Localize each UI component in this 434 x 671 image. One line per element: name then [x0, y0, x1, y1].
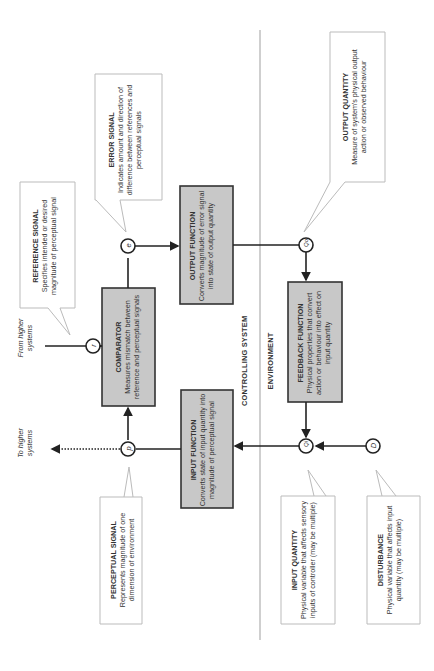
- feedback-function-description: Physical properties that convert action …: [305, 291, 332, 395]
- error-signal-title: ERROR SIGNAL: [107, 80, 116, 200]
- disturbance-text: DISTURBANCE Physical variable that affec…: [376, 500, 412, 620]
- input-function-description: Converts state of input quantity into ma…: [198, 394, 216, 507]
- feedback-function-title: FEEDBACK FUNCTION: [296, 283, 305, 403]
- output-quantity-text: OUTPUT QUANTITY Measure of system's phys…: [341, 45, 375, 169]
- perceptual-signal-text: PERCEPTUAL SIGNAL Represents magnitude o…: [109, 500, 137, 620]
- node-d-label: D: [369, 438, 378, 454]
- error-signal-text: ERROR SIGNAL Indicates amount and direct…: [107, 80, 149, 200]
- input-quantity-title: INPUT QUANTITY: [290, 500, 299, 620]
- comparator-title: COMPARATOR: [114, 288, 123, 406]
- input-function-title: INPUT FUNCTION: [189, 391, 198, 509]
- input-quantity-description: Physical variable that affects sensory i…: [299, 501, 317, 619]
- output-function-description: Converts magnitude of error signal into …: [197, 191, 215, 301]
- reference-signal-title: REFERENCE SIGNAL: [31, 186, 40, 306]
- disturbance-title: DISTURBANCE: [376, 500, 385, 620]
- environment-label: ENVIRONMENT: [266, 316, 276, 406]
- output-quantity-title: OUTPUT QUANTITY: [341, 45, 350, 169]
- reference-signal-description: Specifies intended or desired magnitude …: [40, 197, 58, 295]
- input-function-text: INPUT FUNCTION Converts state of input q…: [189, 391, 225, 509]
- node-p-label: p: [124, 441, 133, 457]
- node-qi-label: Qi: [303, 436, 309, 452]
- perceptual-signal-description: Represents magnitude of one dimension of…: [118, 513, 136, 607]
- reference-signal-text: REFERENCE SIGNAL Specifies intended or d…: [31, 186, 65, 306]
- node-r-label: r: [89, 338, 98, 354]
- comparator-description: Measures mismatch between reference and …: [123, 295, 141, 399]
- node-qo-label: Qo: [303, 235, 309, 251]
- perceptual-signal-title: PERCEPTUAL SIGNAL: [109, 500, 118, 620]
- node-e-label: e: [124, 238, 133, 254]
- comparator-text: COMPARATOR Measures mismatch between ref…: [114, 288, 142, 406]
- output-quantity-description: Measure of system's physical output acti…: [350, 49, 368, 165]
- disturbance-description: Physical variable that affects input qua…: [385, 506, 403, 615]
- feedback-function-text: FEEDBACK FUNCTION Physical properties th…: [296, 283, 334, 403]
- input-quantity-text: INPUT QUANTITY Physical variable that af…: [290, 500, 326, 620]
- output-function-title: OUTPUT FUNCTION: [188, 187, 197, 305]
- from-higher-systems-label: From higher systems: [16, 318, 36, 358]
- error-signal-description: Indicates amount and direction of differ…: [116, 85, 143, 196]
- controlling-system-label: CONTROLLING SYSTEM: [240, 316, 250, 406]
- output-function-text: OUTPUT FUNCTION Converts magnitude of er…: [188, 187, 224, 305]
- to-higher-systems-label: To higher systems: [16, 423, 36, 463]
